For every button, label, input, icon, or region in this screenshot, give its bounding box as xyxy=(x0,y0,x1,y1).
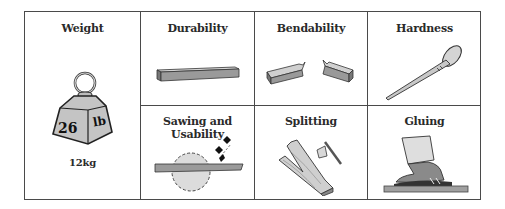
cell-durability: Durability xyxy=(141,12,254,105)
wooden-plank-icon xyxy=(155,62,241,84)
cell-hardness: Hardness xyxy=(368,12,481,105)
cell-title: Gluing xyxy=(368,115,481,128)
cell-title: Hardness xyxy=(368,22,481,35)
saw-blade-icon xyxy=(153,136,245,196)
axe-split-log-icon xyxy=(275,136,351,196)
cell-title: Weight xyxy=(25,22,140,35)
weight-icon: 26 lb xyxy=(48,68,118,148)
svg-text:lb: lb xyxy=(92,113,107,129)
cell-title: Bendability xyxy=(255,22,367,35)
cell-weight: Weight 26 lb 12kg xyxy=(25,12,140,199)
properties-table: Weight 26 lb 12kg Durability Bendability xyxy=(24,11,481,200)
cell-sawing: Sawing and Usability xyxy=(141,106,254,199)
cell-gluing: Gluing xyxy=(368,106,481,199)
cell-bendability: Bendability xyxy=(255,12,367,105)
cell-title: Durability xyxy=(141,22,254,35)
weight-caption: 12kg xyxy=(25,157,140,168)
nail-icon xyxy=(382,40,468,104)
cell-title: Splitting xyxy=(255,115,367,128)
svg-text:26: 26 xyxy=(58,120,77,136)
glued-shoe-icon xyxy=(380,134,470,196)
broken-plank-icon xyxy=(265,56,361,92)
cell-splitting: Splitting xyxy=(255,106,367,199)
